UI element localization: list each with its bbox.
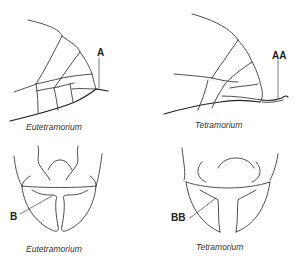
diagram-artwork <box>0 0 304 267</box>
caption-eutetramorium-head: Eutetramorium <box>26 244 82 254</box>
caption-eutetramorium-gaster: Eutetramorium <box>26 122 82 132</box>
eutetramorium-head-drawing <box>14 146 102 231</box>
caption-tetramorium-head: Tetramorium <box>196 242 243 252</box>
marker-a: A <box>97 47 104 58</box>
marker-bb: BB <box>171 212 185 223</box>
caption-tetramorium-gaster: Tetramorium <box>195 120 242 130</box>
marker-b: B <box>10 211 17 222</box>
eutetramorium-gaster-drawing <box>10 20 108 121</box>
marker-aa: AA <box>272 50 286 61</box>
tetramorium-gaster-drawing <box>164 14 288 114</box>
tetramorium-head-drawing <box>182 148 278 232</box>
